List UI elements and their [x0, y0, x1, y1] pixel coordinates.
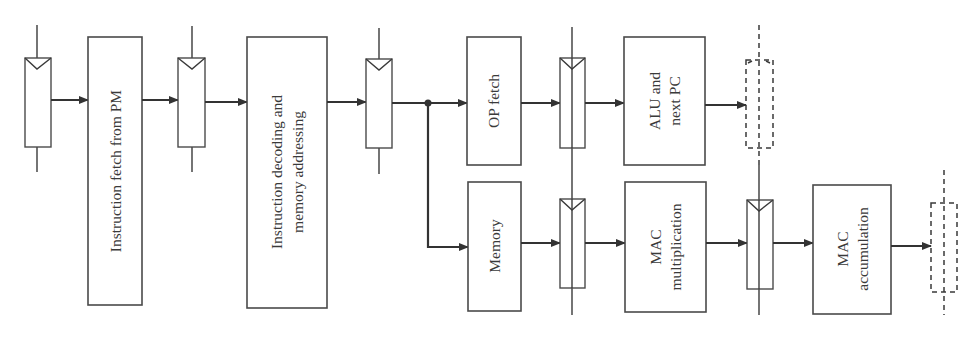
stage-macacc-label-line1: MAC: [834, 231, 851, 266]
stage-memory-label: Memory: [486, 219, 503, 273]
wire-branch-to-memory: [428, 103, 468, 247]
stage-op-fetch: OP fetch: [467, 37, 521, 165]
stage-macmul-label-line1: MAC: [647, 229, 664, 264]
stage-macmul-label-line2: multiplication: [667, 203, 684, 290]
stage-memory: Memory: [468, 182, 521, 311]
stage-instruction-decode: Instruction decoding and memory addressi…: [247, 37, 327, 308]
pipeline-register-5-top-dashed: [746, 25, 773, 165]
stage-instruction-fetch-label: Instruction fetch from PM: [107, 90, 124, 253]
pipeline-register-6-dashed: [931, 170, 957, 315]
stage-alu-label-line1: ALU and: [646, 72, 663, 130]
stage-mac-multiplication: MAC multiplication: [625, 182, 706, 312]
stage-instruction-fetch: Instruction fetch from PM: [88, 37, 142, 305]
pipeline-diagram: Instruction fetch from PM Instruction de…: [0, 0, 980, 341]
stage-decode-label-line1: Instruction decoding and: [268, 95, 285, 249]
pipeline-register-2: [178, 26, 205, 172]
stage-alu-label-line2: next PC: [666, 76, 683, 126]
pipeline-register-5-bottom: [747, 200, 773, 289]
stage-decode-label-line2: memory addressing: [289, 111, 306, 233]
pipeline-register-4-top: [560, 58, 585, 148]
pipeline-register-1: [25, 25, 51, 172]
pipeline-register-4-bottom: [560, 199, 585, 288]
stage-alu-next-pc: ALU and next PC: [624, 37, 705, 165]
stage-mac-accumulation: MAC accumulation: [813, 185, 891, 314]
pipeline-register-3: [366, 28, 392, 174]
stage-op-fetch-label: OP fetch: [485, 74, 502, 128]
stage-macacc-label-line2: accumulation: [854, 207, 871, 291]
